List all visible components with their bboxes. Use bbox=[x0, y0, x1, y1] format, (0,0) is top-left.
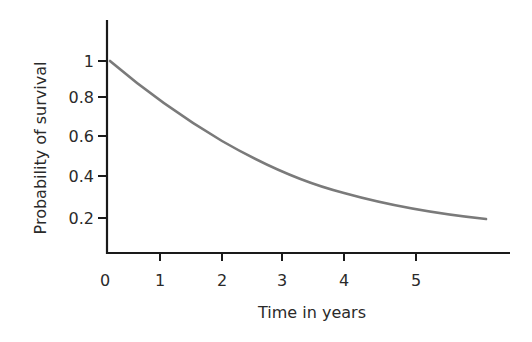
x-tick-label: 5 bbox=[411, 271, 421, 290]
survival-chart: 1 0.8 0.6 0.4 0.2 0 1 2 3 4 5 Time in ye… bbox=[0, 0, 532, 342]
x-ticks bbox=[160, 253, 416, 261]
x-tick-label: 0 bbox=[100, 271, 110, 290]
y-ticks bbox=[98, 61, 107, 218]
y-tick-label: 0.8 bbox=[69, 88, 94, 107]
y-tick-label: 1 bbox=[84, 52, 94, 71]
x-axis-title: Time in years bbox=[257, 303, 366, 322]
y-tick-label: 0.4 bbox=[69, 167, 94, 186]
x-tick-label: 3 bbox=[277, 271, 287, 290]
x-tick-labels: 0 1 2 3 4 5 bbox=[100, 271, 421, 290]
y-tick-label: 0.6 bbox=[69, 127, 94, 146]
y-axis-title: Probability of survival bbox=[31, 62, 50, 235]
x-tick-label: 2 bbox=[217, 271, 227, 290]
y-tick-labels: 1 0.8 0.6 0.4 0.2 bbox=[69, 52, 94, 228]
survival-curve bbox=[110, 61, 486, 219]
y-tick-label: 0.2 bbox=[69, 209, 94, 228]
x-tick-label: 1 bbox=[155, 271, 165, 290]
x-tick-label: 4 bbox=[339, 271, 349, 290]
